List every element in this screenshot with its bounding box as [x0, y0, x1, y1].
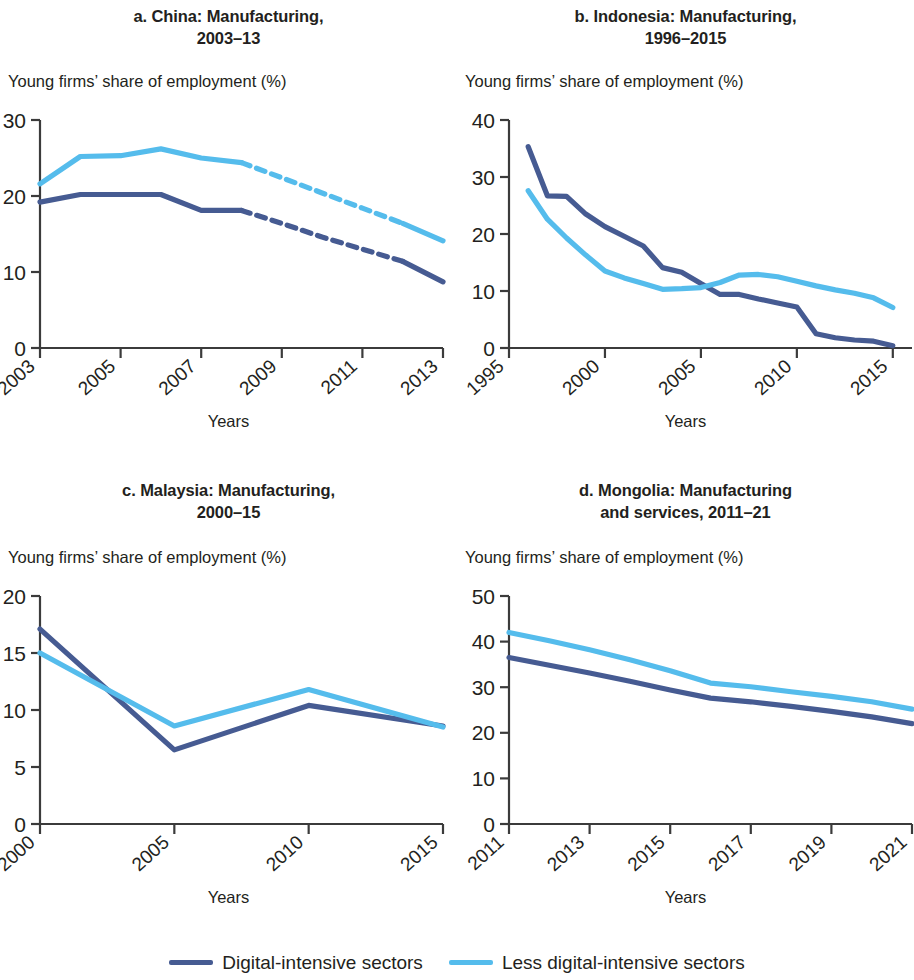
x-axis-title-mongolia: Years: [457, 888, 914, 907]
x-tick-label: 2015: [396, 831, 441, 875]
legend-item-digital-intensive: Digital-intensive sectors: [169, 953, 423, 972]
figure-young-firms-employment-share: a. China: Manufacturing, 2003–13 Young f…: [0, 0, 914, 980]
x-tick-label: 2011: [317, 355, 361, 398]
series-line-digital-intensive: [242, 210, 403, 261]
x-axis-title-malaysia: Years: [0, 888, 457, 907]
x-tick-label: 2005: [654, 355, 699, 399]
legend-label-less-digital-intensive: Less digital-intensive sectors: [502, 953, 745, 972]
y-tick-label: 10: [472, 280, 495, 303]
series-line-digital-intensive: [40, 194, 242, 210]
x-tick-label: 1995: [462, 355, 507, 399]
panel-china: a. China: Manufacturing, 2003–13 Young f…: [0, 0, 457, 460]
plot-indonesia: 01020304019952000200520102015: [457, 0, 914, 460]
series-line-digital-intensive: [528, 147, 893, 346]
plot-malaysia: 051015202000200520102015: [0, 460, 457, 920]
legend-label-digital-intensive: Digital-intensive sectors: [222, 953, 423, 972]
y-tick-label: 10: [472, 767, 495, 790]
x-tick-label: 2010: [750, 355, 795, 399]
y-tick-label: 5: [14, 756, 26, 779]
y-tick-label: 20: [3, 185, 26, 208]
chart-legend: Digital-intensive sectors Less digital-i…: [0, 953, 914, 972]
x-tick-label: 2021: [865, 831, 910, 875]
series-line-less-digital-intensive: [40, 149, 242, 184]
x-tick-label: 2007: [154, 355, 199, 399]
series-line-digital-intensive: [40, 629, 443, 750]
x-tick-label: 2003: [0, 355, 39, 399]
x-tick-label: 2005: [128, 831, 173, 875]
y-tick-label: 20: [472, 721, 495, 744]
y-tick-label: 10: [3, 261, 26, 284]
y-tick-label: 30: [472, 676, 495, 699]
panel-malaysia: c. Malaysia: Manufacturing, 2000–15 Youn…: [0, 460, 457, 920]
legend-swatch-less-digital-intensive: [449, 960, 493, 965]
panel-indonesia: b. Indonesia: Manufacturing, 1996–2015 Y…: [457, 0, 914, 460]
x-tick-label: 2010: [262, 831, 307, 875]
x-tick-label: 2015: [623, 831, 668, 875]
x-tick-label: 2019: [785, 831, 830, 875]
y-tick-label: 30: [472, 166, 495, 189]
series-line-digital-intensive: [403, 261, 443, 282]
x-tick-label: 2013: [543, 831, 588, 875]
series-line-less-digital-intensive: [403, 223, 443, 240]
x-tick-label: 2013: [396, 355, 441, 399]
x-tick-label: 2017: [704, 831, 749, 875]
y-tick-label: 15: [3, 642, 26, 665]
y-tick-label: 10: [3, 699, 26, 722]
y-tick-label: 40: [472, 630, 495, 653]
y-tick-label: 40: [472, 109, 495, 132]
x-axis-title-china: Years: [0, 412, 457, 431]
x-tick-label: 2000: [0, 831, 39, 875]
y-tick-label: 50: [472, 585, 495, 608]
y-tick-label: 20: [472, 223, 495, 246]
panel-mongolia: d. Mongolia: Manufacturing and services,…: [457, 460, 914, 920]
x-tick-label: 2009: [235, 355, 280, 399]
y-tick-label: 30: [3, 109, 26, 132]
x-axis-title-indonesia: Years: [457, 412, 914, 431]
plot-mongolia: 01020304050201120132015201720192021: [457, 460, 914, 920]
legend-swatch-digital-intensive: [169, 960, 213, 965]
legend-item-less-digital-intensive: Less digital-intensive sectors: [449, 953, 745, 972]
x-tick-label: 2000: [558, 355, 603, 399]
x-tick-label: 2011: [463, 831, 507, 874]
y-tick-label: 20: [3, 585, 26, 608]
x-tick-label: 2005: [74, 355, 119, 399]
plot-china: 0102030200320052007200920112013: [0, 0, 457, 460]
x-tick-label: 2015: [846, 355, 891, 399]
series-line-less-digital-intensive: [242, 163, 403, 224]
series-line-digital-intensive: [509, 658, 912, 724]
